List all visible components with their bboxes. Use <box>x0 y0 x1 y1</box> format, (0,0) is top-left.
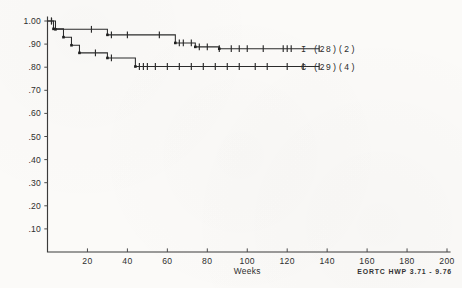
event-marker <box>106 34 109 37</box>
event-marker <box>194 46 197 49</box>
event-marker <box>218 47 221 50</box>
x-axis: 20406080100120140160180200 <box>82 248 455 265</box>
x-tick-label: 140 <box>319 256 335 266</box>
y-tick-label: .20 <box>28 201 41 211</box>
y-tick-label: .50 <box>28 132 41 142</box>
event-marker <box>78 52 81 55</box>
event-marker <box>106 57 109 60</box>
kaplan-meier-figure: .10.20.30.40.50.60.70.80.901.00 20406080… <box>0 0 462 288</box>
event-marker <box>62 36 65 39</box>
event-marker <box>134 65 137 68</box>
x-tick-label: 200 <box>439 256 455 266</box>
legend-label-c: C (29)(4) <box>301 63 356 73</box>
y-tick-label: .10 <box>28 224 41 234</box>
survival-curves <box>48 18 320 70</box>
survival-plot-svg: .10.20.30.40.50.60.70.80.901.00 20406080… <box>0 0 462 288</box>
x-axis-title: Weeks <box>234 266 261 276</box>
x-tick-label: 100 <box>239 256 255 266</box>
axis-lines <box>48 17 451 252</box>
event-marker <box>70 44 73 47</box>
footer-note: EORTC HWP 3.71 - 9.76 <box>357 268 452 275</box>
legend: I (28)(2)C (29)(4) <box>301 45 356 73</box>
axes-group <box>48 17 451 252</box>
y-tick-label: .70 <box>28 85 41 95</box>
legend-label-i: I (28)(2) <box>301 45 356 55</box>
y-tick-label: .60 <box>28 108 41 118</box>
event-marker <box>174 42 177 45</box>
survival-curve-i <box>48 18 320 53</box>
y-tick-label: .90 <box>28 39 41 49</box>
y-tick-label: .80 <box>28 62 41 72</box>
y-tick-label: .30 <box>28 178 41 188</box>
x-tick-label: 120 <box>279 256 295 266</box>
x-tick-label: 20 <box>82 256 92 266</box>
y-axis: .10.20.30.40.50.60.70.80.901.00 <box>23 16 47 234</box>
y-tick-label: 1.00 <box>23 16 41 26</box>
x-tick-label: 180 <box>399 256 415 266</box>
x-tick-label: 80 <box>202 256 212 266</box>
event-marker <box>52 28 55 31</box>
x-tick-label: 160 <box>359 256 375 266</box>
x-tick-label: 60 <box>162 256 172 266</box>
x-tick-label: 40 <box>122 256 132 266</box>
y-tick-label: .40 <box>28 155 41 165</box>
